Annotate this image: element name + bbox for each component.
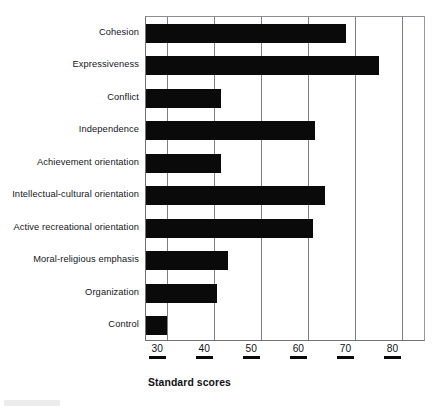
bar <box>146 251 228 270</box>
bar-chart-figure: CohesionExpressivenessConflictIndependen… <box>0 0 439 409</box>
category-label: Control <box>108 319 139 329</box>
x-tick-label: 30 <box>146 343 168 355</box>
x-tick-label: 50 <box>240 343 262 355</box>
x-tick-80: 80 <box>381 343 403 359</box>
x-tick-label: 80 <box>381 343 403 355</box>
category-label: Active recreational orientation <box>13 222 139 232</box>
x-tick-underline <box>149 356 166 359</box>
category-label: Independence <box>79 124 139 134</box>
x-tick-50: 50 <box>240 343 262 359</box>
category-axis-labels: CohesionExpressivenessConflictIndependen… <box>0 16 142 341</box>
x-tick-underline <box>290 356 307 359</box>
x-tick-60: 60 <box>287 343 309 359</box>
x-axis-title: Standard scores <box>148 377 231 388</box>
bar <box>146 186 325 205</box>
x-tick-40: 40 <box>193 343 215 359</box>
bar <box>146 284 217 303</box>
x-tick-label: 60 <box>287 343 309 355</box>
bar <box>146 316 167 335</box>
bar <box>146 121 315 140</box>
x-tick-label: 40 <box>193 343 215 355</box>
x-tick-label: 70 <box>334 343 356 355</box>
x-tick-underline <box>243 356 260 359</box>
category-label: Organization <box>85 287 139 297</box>
x-tick-underline <box>337 356 354 359</box>
category-label: Expressiveness <box>72 59 139 69</box>
category-label: Cohesion <box>99 27 139 37</box>
bar <box>146 154 221 173</box>
x-tick-underline <box>384 356 401 359</box>
bar <box>146 219 313 238</box>
bar <box>146 24 346 43</box>
gridline-80 <box>402 17 403 340</box>
x-tick-30: 30 <box>146 343 168 359</box>
category-label: Intellectual-cultural orientation <box>12 189 139 199</box>
bar <box>146 56 379 75</box>
scan-artifact <box>4 400 60 406</box>
value-axis-ticks: 304050607080 <box>145 343 437 369</box>
plot-area <box>145 16 425 341</box>
x-tick-70: 70 <box>334 343 356 359</box>
category-label: Conflict <box>107 92 139 102</box>
bar <box>146 89 221 108</box>
category-label: Achievement orientation <box>37 157 139 167</box>
category-label: Moral-religious emphasis <box>33 254 139 264</box>
x-tick-underline <box>196 356 213 359</box>
